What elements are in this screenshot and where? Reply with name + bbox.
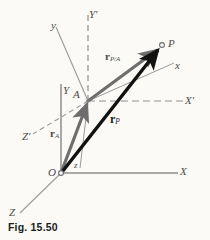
vector-diagram [0,0,210,240]
label-vector-r-P-over-A: rP/A [105,51,120,63]
label-axis-x-lower: x [175,60,180,71]
point-marker-O [59,171,64,176]
point-marker-P [160,43,165,48]
axis-Z-fixed [20,173,61,213]
label-axis-y-lower: y [51,20,56,31]
label-axis-Z-prime: Z′ [22,131,31,142]
vector-r-P [62,50,158,172]
label-vector-r-A: rA [50,128,59,140]
vector-subscript-P-over-A: P/A [110,55,120,62]
label-axis-z-lower: z [74,161,78,170]
label-vector-r-P: rP [110,113,120,126]
label-point-P: P [168,38,175,49]
figure-container: y Y′ Y X′ X Z′ Z x z O A P rP/A rP rA Fi… [0,0,210,240]
label-axis-Z-fixed: Z [9,207,15,218]
figure-caption: Fig. 15.50 [8,221,58,233]
vector-subscript-A: A [55,132,59,139]
label-axis-X-fixed: X [180,166,187,177]
label-axis-Y-fixed: Y [63,85,69,96]
point-marker-A [86,99,90,103]
label-point-A: A [73,89,80,100]
vector-subscript-P: P [115,117,120,126]
label-axis-Y-prime: Y′ [89,9,98,20]
label-axis-X-prime: X′ [185,95,194,106]
label-point-O: O [48,167,56,178]
